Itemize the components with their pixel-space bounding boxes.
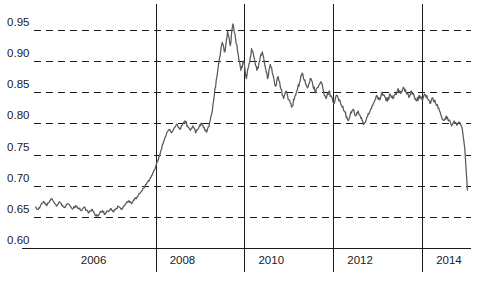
x-axis-tick-labels: 20062008201020122014 xyxy=(81,254,463,266)
y-tick-label: 0.65 xyxy=(7,203,29,215)
x-tick-label: 2012 xyxy=(347,254,373,266)
series-line-rate xyxy=(36,24,468,216)
y-tick-label: 0.85 xyxy=(7,78,29,90)
vertical-rules-group xyxy=(157,4,423,272)
chart-canvas: 0.600.650.700.750.800.850.900.95 2006200… xyxy=(0,0,478,283)
gridlines-group xyxy=(34,31,472,218)
x-tick-label: 2010 xyxy=(258,254,284,266)
x-tick-label: 2008 xyxy=(170,254,196,266)
data-series-group xyxy=(36,24,468,216)
y-tick-label: 0.70 xyxy=(7,172,29,184)
y-tick-label: 0.90 xyxy=(7,47,29,59)
y-tick-label: 0.80 xyxy=(7,109,29,121)
y-tick-label: 0.95 xyxy=(7,16,29,28)
y-tick-label: 0.75 xyxy=(7,141,29,153)
line-chart: 0.600.650.700.750.800.850.900.95 2006200… xyxy=(0,0,478,283)
x-tick-label: 2014 xyxy=(436,254,462,266)
y-tick-label: 0.60 xyxy=(7,234,29,246)
x-tick-label: 2006 xyxy=(81,254,107,266)
y-axis-tick-labels: 0.600.650.700.750.800.850.900.95 xyxy=(7,16,29,246)
